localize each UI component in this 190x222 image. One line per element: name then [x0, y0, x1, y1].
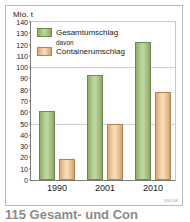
y-axis-tick-mark	[29, 180, 31, 181]
y-axis-tick-mark	[29, 22, 31, 23]
legend-sub-note: davon	[56, 39, 165, 46]
y-axis-tick-label: 120	[4, 41, 28, 48]
x-axis-label: 2010	[143, 183, 163, 193]
bar-total	[135, 42, 151, 180]
y-axis-tick-label: 0	[4, 177, 28, 184]
y-axis-tick-label: 100	[4, 64, 28, 71]
chart-legend: Gesamtumschlag davon Containerumschlag	[37, 27, 165, 57]
bar-container	[107, 124, 123, 180]
y-axis-tick-label: 50	[4, 120, 28, 127]
y-axis-tick-label: 20	[4, 154, 28, 161]
bar-container	[155, 92, 171, 180]
y-axis-tick-label: 130	[4, 30, 28, 37]
y-axis-tick-label: 90	[4, 75, 28, 82]
legend-label-container: Containerumschlag	[56, 47, 125, 56]
x-axis-label: 1990	[47, 183, 67, 193]
plot-area: 0102030405060708090100110120130140 19902…	[30, 21, 176, 181]
y-axis-tick-mark	[29, 44, 31, 45]
y-axis-tick-mark	[29, 101, 31, 102]
figure-code-watermark: 166208	[163, 198, 178, 203]
x-axis-label: 2001	[95, 183, 115, 193]
y-axis-tick-mark	[29, 89, 31, 90]
y-axis-tick-label: 10	[4, 165, 28, 172]
y-axis-tick-mark	[29, 55, 31, 56]
legend-label-total: Gesamtumschlag	[56, 28, 118, 37]
y-axis-tick-label: 60	[4, 109, 28, 116]
y-axis-tick-mark	[29, 78, 31, 79]
y-axis-tick-label: 30	[4, 143, 28, 150]
legend-swatch-icon-container	[37, 47, 52, 56]
y-axis-tick-label: 80	[4, 86, 28, 93]
y-axis-tick-label: 140	[4, 19, 28, 26]
y-axis-tick-mark	[29, 123, 31, 124]
y-axis-tick-mark	[29, 146, 31, 147]
caption-clip: 115 Gesamt- und Con	[5, 209, 183, 222]
legend-swatch-icon-total	[37, 28, 52, 37]
legend-item-containerumschlag: Containerumschlag	[37, 46, 165, 57]
legend-item-gesamtumschlag: Gesamtumschlag	[37, 27, 165, 38]
bar-container	[59, 159, 75, 180]
bar-total	[87, 75, 103, 180]
y-axis-tick-mark	[29, 157, 31, 158]
y-axis-tick-label: 110	[4, 52, 28, 59]
y-axis-tick-mark	[29, 112, 31, 113]
figure-caption: 115 Gesamt- und Con	[5, 209, 138, 222]
chart-figure-card: Mio. t 010203040506070809010011012013014…	[5, 5, 183, 206]
y-axis-tick-mark	[29, 168, 31, 169]
y-axis-tick-label: 40	[4, 131, 28, 138]
y-axis-tick-mark	[29, 33, 31, 34]
y-axis-tick-mark	[29, 134, 31, 135]
y-axis-tick-label: 70	[4, 98, 28, 105]
bar-total	[39, 111, 55, 180]
y-axis-tick-mark	[29, 67, 31, 68]
